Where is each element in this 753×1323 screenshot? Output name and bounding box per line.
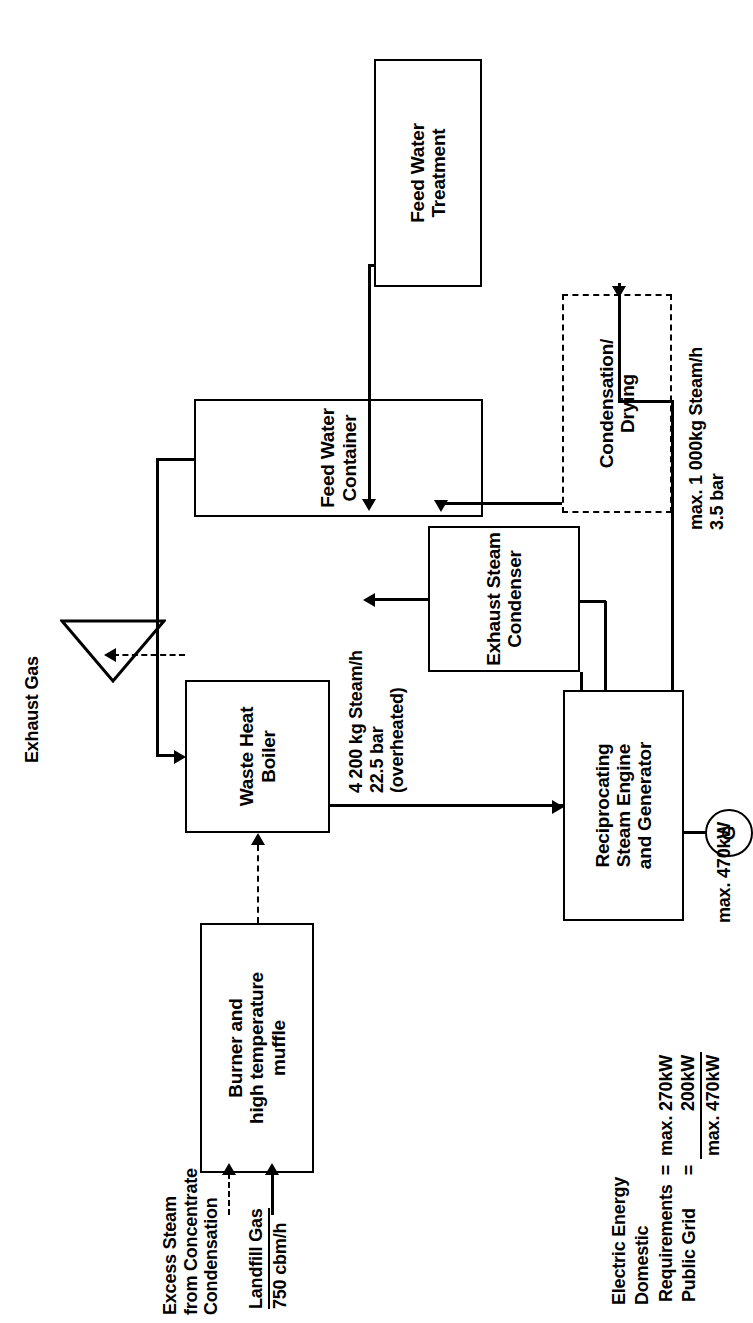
box-condensation-drying: Condensation/ Drying: [562, 294, 672, 513]
box-feed-water-treatment: Feed Water Treatment: [374, 59, 482, 287]
flow-fwt-to-fwc-arrowhead: [362, 499, 376, 511]
table-row: Requirements = max. 270kW: [655, 1052, 678, 1305]
flow-engine-to-condenser: [604, 601, 607, 690]
box-exhaust-steam-condenser: Exhaust Steam Condenser: [428, 526, 580, 672]
flow-boiler-to-stack-arrowhead: [104, 648, 116, 662]
box-burner-and-muffle: Burner and high temperature muffle: [200, 923, 314, 1173]
excess-steam-label: Excess Steam from Concentrate Condensati…: [160, 1168, 222, 1315]
box-burner-and-muffle-label: Burner and high temperature muffle: [225, 968, 289, 1128]
flow-excess-steam-to-burner: [228, 1173, 230, 1215]
flow-burner-to-boiler-arrowhead: [251, 833, 265, 845]
hp-steam-label: 4 200 kg Steam/h 22.5 bar (overheated): [346, 650, 408, 793]
electric-energy-table: Requirements = max. 270kW Public Grid = …: [655, 1052, 725, 1305]
flow-excess-steam-arrowhead: [222, 1163, 236, 1175]
box-waste-heat-boiler: Waste Heat Boiler: [185, 680, 330, 833]
electric-energy-heading-2: Domestic: [631, 1052, 654, 1305]
energy-row-name: Requirements: [655, 1181, 678, 1305]
energy-row-eq: =: [655, 1159, 678, 1181]
hp-steam-state: (overheated): [387, 687, 407, 793]
exhaust-gas-label: Exhaust Gas: [22, 656, 43, 763]
flow-condenser-to-fwc-riser: [372, 599, 430, 602]
flow-cd-to-fwc-riser: [440, 503, 562, 506]
flow-lp-steam-from-engine: [671, 400, 674, 690]
flow-lp-steam-arrowhead: [612, 286, 626, 298]
flow-landfill-gas-arrowhead: [265, 1163, 279, 1175]
flow-fwt-to-fwc: [368, 265, 371, 501]
energy-row-value: max. 270kW: [655, 1052, 678, 1159]
landfill-gas-name: Landfill Gas: [246, 1208, 270, 1309]
energy-row-value: 200kW: [677, 1052, 701, 1159]
flow-fwc-to-boiler-riser: [156, 459, 196, 462]
box-steam-engine-generator: Reciprocating Steam Engine and Generator: [563, 690, 684, 921]
landfill-gas-rate: 750 cbm/h: [270, 1223, 290, 1309]
energy-row-name: Public Grid: [677, 1181, 701, 1305]
electric-energy-heading-1: Electric Energy: [608, 1052, 631, 1305]
box-exhaust-steam-condenser-label: Exhaust Steam Condenser: [483, 528, 526, 670]
energy-total-name: [701, 1181, 725, 1305]
lp-steam-flow: max. 1 000kg Steam/h: [686, 347, 706, 530]
lp-steam-pressure: 3.5 bar: [707, 473, 727, 530]
flow-lp-steam-to-cd: [618, 283, 621, 403]
box-steam-engine-generator-label: Reciprocating Steam Engine and Generator: [592, 738, 656, 873]
generator-lead: [684, 832, 707, 835]
excess-steam-text: Excess Steam from Concentrate Condensati…: [160, 1168, 222, 1315]
energy-row-eq: =: [677, 1159, 701, 1181]
lp-steam-label: max. 1 000kg Steam/h 3.5 bar: [686, 347, 727, 530]
electric-energy-summary: Electric Energy Domestic Requirements = …: [608, 1052, 724, 1305]
energy-total-value: max. 470kW: [701, 1052, 725, 1159]
flow-cd-to-fwc-arrowhead: [434, 500, 448, 512]
flow-lp-steam-riser: [618, 401, 673, 404]
flow-engine-to-condenser-riser: [580, 601, 606, 604]
hp-steam-flow: 4 200 kg Steam/h: [346, 650, 366, 793]
box-waste-heat-boiler-label: Waste Heat Boiler: [236, 703, 279, 811]
flow-condenser-to-engine: [580, 672, 583, 690]
flow-hp-steam-riser: [330, 805, 563, 808]
flow-fwc-to-boiler-arrowhead: [174, 750, 186, 764]
energy-total-eq: [701, 1159, 725, 1181]
landfill-gas-label: Landfill Gas 750 cbm/h: [246, 1208, 290, 1309]
flow-fwc-to-boiler-run: [156, 459, 159, 757]
table-row: Public Grid = 200kW: [677, 1052, 701, 1305]
flow-boiler-to-stack-riser: [113, 654, 185, 656]
generator-output-label: max. 470kW: [714, 822, 735, 923]
table-row-total: max. 470kW: [701, 1052, 725, 1305]
flow-fwc-to-boiler-drop: [156, 755, 176, 758]
box-feed-water-treatment-label: Feed Water Treatment: [407, 119, 450, 227]
box-feed-water-container-label: Feed Water Container: [317, 404, 360, 512]
flow-condenser-to-fwc-arrowhead: [363, 593, 375, 607]
box-condensation-drying-label: Condensation/ Drying: [596, 335, 639, 472]
hp-steam-pressure: 22.5 bar: [367, 727, 387, 793]
flow-burner-to-boiler: [257, 845, 259, 923]
flow-hp-steam-arrowhead: [552, 800, 564, 814]
